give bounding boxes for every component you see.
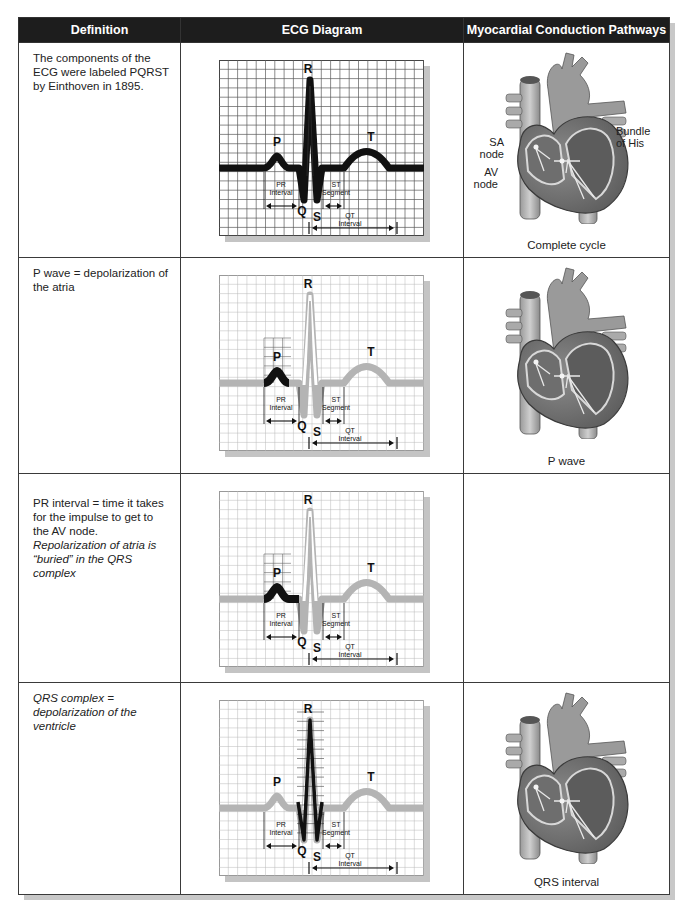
definition-italic: QRS complex = depolarization of the vent… — [33, 692, 137, 732]
ecg-diagram: RPTQSPRIntervalSTSegmentQTInterval — [219, 60, 424, 236]
svg-text:T: T — [367, 561, 375, 575]
svg-text:Interval: Interval — [270, 829, 293, 836]
sa-node-label: SAnode — [476, 136, 504, 160]
heart-caption: P wave — [464, 455, 669, 467]
heart-cell: QRS interval — [464, 683, 670, 895]
ecg-cell: RPTQSPRIntervalSTSegmentQTInterval — [181, 683, 464, 895]
definition-text: PR interval = time it takes for the impu… — [19, 474, 180, 580]
svg-text:Segment: Segment — [322, 404, 350, 412]
svg-text:T: T — [367, 345, 375, 359]
svg-text:PR: PR — [276, 396, 286, 403]
svg-text:Segment: Segment — [322, 829, 350, 837]
svg-text:PR: PR — [276, 181, 286, 188]
ecg-diagram: RPTQSPRIntervalSTSegmentQTInterval — [219, 491, 424, 667]
definition-text: P wave = depolarization of the atria — [19, 258, 180, 294]
table-row: P wave = depolarization of the atria RPT… — [19, 258, 670, 474]
heart-caption: QRS interval — [464, 876, 669, 888]
definition-cell: P wave = depolarization of the atria — [19, 258, 181, 474]
table-row: PR interval = time it takes for the impu… — [19, 474, 670, 683]
av-node-label: AVnode — [468, 166, 498, 190]
ecg-cell: RPTQSPRIntervalSTSegmentQTInterval — [181, 43, 464, 258]
heart-cell-empty — [464, 474, 670, 683]
ecg-reference-table-container: Definition ECG Diagram Myocardial Conduc… — [18, 17, 669, 894]
ecg-diagram: RPTQSPRIntervalSTSegmentQTInterval — [219, 275, 424, 451]
table-row: QRS complex = depolarization of the vent… — [19, 683, 670, 895]
header-definition: Definition — [19, 18, 181, 43]
svg-text:Segment: Segment — [322, 189, 350, 197]
svg-text:R: R — [304, 493, 313, 507]
svg-text:Interval: Interval — [270, 189, 293, 196]
svg-text:ST: ST — [332, 821, 342, 828]
heart-cell: SAnode AVnode Bundleof His Complete cycl… — [464, 43, 670, 258]
svg-text:S: S — [313, 425, 321, 439]
svg-text:S: S — [313, 210, 321, 224]
svg-text:Segment: Segment — [322, 620, 350, 628]
svg-text:P: P — [273, 135, 281, 149]
svg-text:PR: PR — [276, 821, 286, 828]
svg-text:R: R — [304, 702, 313, 716]
definition-cell: QRS complex = depolarization of the vent… — [19, 683, 181, 895]
svg-text:P: P — [273, 350, 281, 364]
svg-text:ST: ST — [332, 396, 342, 403]
svg-text:P: P — [273, 775, 281, 789]
svg-text:R: R — [304, 277, 313, 291]
svg-text:S: S — [313, 641, 321, 655]
svg-text:Interval: Interval — [339, 651, 362, 658]
svg-text:T: T — [367, 770, 375, 784]
heart-caption: Complete cycle — [464, 239, 669, 251]
definition-plain: P wave = depolarization of the atria — [33, 267, 168, 293]
ecg-cell: RPTQSPRIntervalSTSegmentQTInterval — [181, 258, 464, 474]
header-row: Definition ECG Diagram Myocardial Conduc… — [19, 18, 670, 43]
svg-text:ST: ST — [332, 181, 342, 188]
definition-text: QRS complex = depolarization of the vent… — [19, 683, 180, 733]
ecg-diagram: RPTQSPRIntervalSTSegmentQTInterval — [219, 700, 424, 876]
svg-text:PR: PR — [276, 612, 286, 619]
svg-text:T: T — [367, 130, 375, 144]
svg-text:Interval: Interval — [270, 404, 293, 411]
definition-plain: The components of the ECG were labeled P… — [33, 52, 169, 92]
svg-text:Interval: Interval — [270, 620, 293, 627]
svg-text:QT: QT — [345, 852, 355, 860]
definition-plain: PR interval = time it takes for the impu… — [33, 497, 164, 537]
svg-text:QT: QT — [345, 212, 355, 220]
definition-text: The components of the ECG were labeled P… — [19, 43, 180, 93]
header-conduction-pathways: Myocardial Conduction Pathways — [464, 18, 670, 43]
svg-text:Interval: Interval — [339, 860, 362, 867]
table-row: The components of the ECG were labeled P… — [19, 43, 670, 258]
ecg-reference-table: Definition ECG Diagram Myocardial Conduc… — [18, 17, 670, 895]
header-ecg-diagram: ECG Diagram — [181, 18, 464, 43]
svg-text:QT: QT — [345, 427, 355, 435]
svg-text:QT: QT — [345, 643, 355, 651]
definition-italic: Repolarization of atria is “buried” in t… — [33, 539, 156, 579]
svg-text:Interval: Interval — [339, 435, 362, 442]
svg-text:ST: ST — [332, 612, 342, 619]
svg-text:P: P — [273, 566, 281, 580]
ecg-cell: RPTQSPRIntervalSTSegmentQTInterval — [181, 474, 464, 683]
heart-cell: P wave — [464, 258, 670, 474]
bundle-of-his-label: Bundleof His — [616, 125, 650, 149]
svg-text:S: S — [313, 850, 321, 864]
definition-cell: The components of the ECG were labeled P… — [19, 43, 181, 258]
svg-text:R: R — [304, 62, 313, 76]
definition-cell: PR interval = time it takes for the impu… — [19, 474, 181, 683]
svg-text:Interval: Interval — [339, 220, 362, 227]
